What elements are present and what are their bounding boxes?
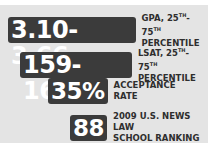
acceptance-label-line2: RATE bbox=[114, 91, 176, 102]
ranking-label: 2009 U.S. NEWS LAW SCHOOL RANKING bbox=[113, 111, 208, 144]
acceptance-value-badge: 35% bbox=[48, 78, 108, 104]
stat-gpa: 3.10-3.66 GPA, 25TH-75TH PERCENTILE bbox=[8, 10, 208, 49]
gpa-sup-2: TH bbox=[153, 26, 161, 32]
lsat-label-prefix: LSAT, 25 bbox=[138, 48, 178, 58]
lsat-sup-1: TH bbox=[178, 47, 186, 53]
lsat-sup-2: TH bbox=[150, 61, 158, 67]
stat-ranking: 88 2009 U.S. NEWS LAW SCHOOL RANKING bbox=[70, 111, 208, 144]
ranking-label-line2: SCHOOL RANKING bbox=[113, 133, 208, 144]
gpa-label-prefix: GPA, 25 bbox=[142, 13, 179, 23]
gpa-label: GPA, 25TH-75TH PERCENTILE bbox=[142, 10, 208, 49]
gpa-value-badge: 3.10-3.66 bbox=[8, 17, 136, 43]
acceptance-label-line1: ACCEPTANCE bbox=[114, 80, 176, 91]
stat-acceptance: 35% ACCEPTANCE RATE bbox=[48, 78, 176, 104]
acceptance-label: ACCEPTANCE RATE bbox=[114, 80, 176, 102]
ranking-label-line1: 2009 U.S. NEWS LAW bbox=[113, 111, 208, 133]
ranking-value-badge: 88 bbox=[70, 115, 107, 141]
lsat-value-badge: 159-162 bbox=[20, 52, 132, 78]
